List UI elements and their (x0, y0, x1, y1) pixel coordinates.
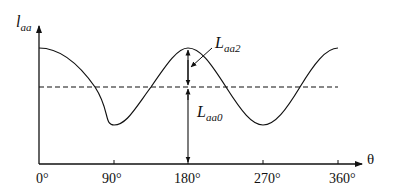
tick-360: 360° (329, 171, 356, 186)
x-tick-labels: 0° 90° 180° 270° 360° (36, 171, 356, 186)
inductance-diagram: laa Laa2 Laa0 θ 0° 90° 180° 270° 360° (0, 0, 393, 193)
tick-90: 90° (102, 171, 122, 186)
tick-270: 270° (254, 171, 281, 186)
mean-label: Laa0 (196, 103, 223, 123)
amp-leader-line (191, 48, 212, 67)
amplitude-label: Laa2 (214, 34, 241, 54)
x-axis-label: θ (367, 151, 374, 167)
tick-180: 180° (174, 171, 201, 186)
tick-0: 0° (36, 171, 49, 186)
y-axis-label: laa (16, 13, 32, 33)
